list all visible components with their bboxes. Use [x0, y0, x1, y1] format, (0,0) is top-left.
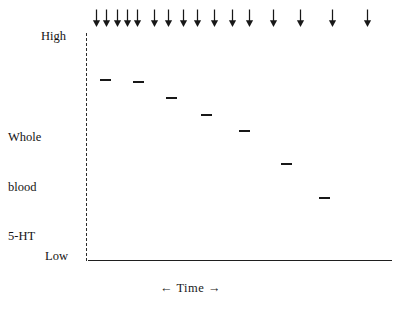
data-point-marker	[281, 163, 292, 165]
data-point-layer	[0, 0, 395, 309]
data-point-marker	[201, 114, 212, 116]
data-point-marker	[166, 97, 177, 99]
data-point-marker	[100, 79, 111, 81]
figure-canvas: High Low Whole blood 5-HT ← Time →	[0, 0, 395, 309]
data-point-marker	[133, 81, 144, 83]
data-point-marker	[319, 197, 330, 199]
data-point-marker	[239, 130, 250, 132]
